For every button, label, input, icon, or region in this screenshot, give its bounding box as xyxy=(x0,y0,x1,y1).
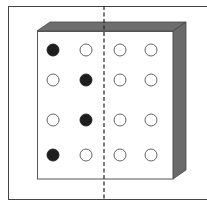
empty-circle xyxy=(47,74,59,86)
empty-circle xyxy=(114,74,126,86)
empty-circle xyxy=(145,44,157,56)
empty-circle xyxy=(114,114,126,126)
empty-circle xyxy=(145,114,157,126)
filled-circle xyxy=(80,114,92,126)
empty-circle xyxy=(145,149,157,161)
filled-circle xyxy=(47,149,59,161)
box-side-face xyxy=(173,22,186,179)
empty-circle xyxy=(114,149,126,161)
filled-circle xyxy=(80,74,92,86)
empty-circle xyxy=(80,149,92,161)
filled-circle xyxy=(47,44,59,56)
diagram-canvas xyxy=(0,0,207,205)
empty-circle xyxy=(47,114,59,126)
empty-circle xyxy=(145,74,157,86)
box-top-face xyxy=(37,22,186,31)
empty-circle xyxy=(114,44,126,56)
empty-circle xyxy=(80,44,92,56)
